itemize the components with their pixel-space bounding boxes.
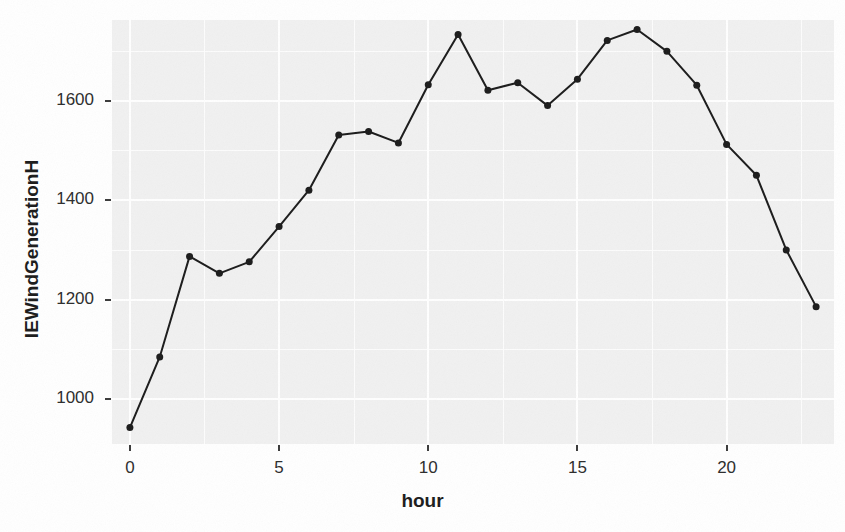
data-point — [186, 253, 193, 260]
y-axis-title: IEWindGenerationH — [21, 129, 43, 369]
data-series-line — [112, 20, 834, 444]
y-tick-mark — [105, 299, 111, 301]
x-tick-label: 10 — [398, 458, 458, 478]
plot-panel — [112, 20, 834, 444]
y-tick-mark — [105, 398, 111, 400]
data-point — [544, 102, 551, 109]
x-tick-label: 0 — [100, 458, 160, 478]
data-point — [335, 131, 342, 138]
data-point — [813, 303, 820, 310]
data-point — [514, 79, 521, 86]
data-point — [156, 353, 163, 360]
x-tick-mark — [427, 445, 429, 451]
x-tick-label: 5 — [249, 458, 309, 478]
chart-figure: IEWindGenerationH hour 1000120014001600 … — [0, 0, 845, 532]
data-point — [604, 37, 611, 44]
top-cutoff-note — [560, 0, 840, 14]
data-point — [425, 81, 432, 88]
data-point — [305, 187, 312, 194]
y-tick-label: 1600 — [32, 90, 94, 110]
data-point — [723, 141, 730, 148]
data-point — [216, 270, 223, 277]
data-point — [395, 139, 402, 146]
x-tick-mark — [576, 445, 578, 451]
x-axis-title: hour — [0, 490, 845, 512]
data-point — [663, 48, 670, 55]
data-point — [574, 76, 581, 83]
x-tick-label: 15 — [547, 458, 607, 478]
data-point — [634, 26, 641, 33]
x-tick-label: 20 — [697, 458, 757, 478]
x-tick-mark — [129, 445, 131, 451]
data-point — [455, 31, 462, 38]
data-point — [753, 172, 760, 179]
y-tick-label: 1200 — [32, 289, 94, 309]
x-tick-mark — [278, 445, 280, 451]
data-point — [693, 82, 700, 89]
y-tick-mark — [105, 199, 111, 201]
data-point — [126, 424, 133, 431]
data-point — [484, 87, 491, 94]
data-point — [365, 128, 372, 135]
y-tick-mark — [105, 100, 111, 102]
x-tick-mark — [726, 445, 728, 451]
data-point — [246, 258, 253, 265]
data-point — [276, 223, 283, 230]
y-tick-label: 1400 — [32, 189, 94, 209]
data-point — [783, 246, 790, 253]
y-tick-label: 1000 — [32, 388, 94, 408]
